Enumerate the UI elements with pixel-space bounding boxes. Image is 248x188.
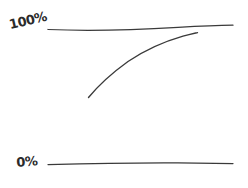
axis-label-0-percent: 0% [16,153,38,170]
reference-line-100-percent [48,25,233,30]
growth-curve [89,33,198,98]
reference-line-0-percent [48,163,233,165]
sketch-canvas: 100% 0% [0,0,248,188]
